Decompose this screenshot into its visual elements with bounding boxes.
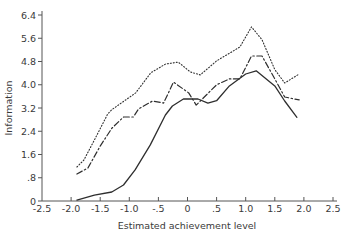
x-axis-title: Estimated achievement level [118, 220, 256, 231]
series-dotted-line [77, 27, 299, 167]
y-axis: 0.81.62.43.24.04.85.66.4 [21, 10, 42, 207]
y-tick-label: 1.6 [21, 149, 36, 160]
y-tick-label: 5.6 [21, 33, 36, 44]
y-tick-label: 4.0 [21, 79, 36, 90]
x-tick-label: -1.0 [120, 203, 139, 214]
information-curve-chart: 0.81.62.43.24.04.85.66.4 -2.5-2.0-1.5-1.… [0, 0, 347, 237]
x-tick-label: -2.5 [33, 203, 52, 214]
x-tick-label: 2.0 [296, 203, 311, 214]
x-tick-label: 2.5 [325, 203, 340, 214]
x-tick-label: .5 [212, 203, 221, 214]
plot-series [77, 27, 299, 200]
x-tick-label: 0 [184, 203, 190, 214]
x-tick-label: -.5 [152, 203, 165, 214]
y-tick-label: 6.4 [21, 10, 36, 21]
x-tick-label: 1.0 [238, 203, 253, 214]
y-tick-label: 3.2 [21, 103, 36, 114]
y-tick-label: 2.4 [21, 126, 36, 137]
series-solid-line [77, 71, 297, 200]
y-tick-label: 4.8 [21, 56, 36, 67]
series-dash-dot-line [77, 56, 299, 174]
x-tick-label: 1.5 [267, 203, 282, 214]
x-tick-label: -1.5 [91, 203, 110, 214]
y-tick-label: .8 [27, 172, 36, 183]
y-axis-title: Information [3, 81, 14, 136]
x-tick-label: -2.0 [62, 203, 81, 214]
